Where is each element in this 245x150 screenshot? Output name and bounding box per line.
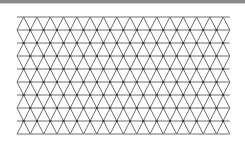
lattice-node (76, 120, 78, 122)
lattice-edge (150, 95, 157, 108)
lattice-edge (37, 95, 44, 108)
lattice-node (136, 29, 138, 31)
lattice-edge (103, 30, 110, 43)
lattice-edge (97, 82, 104, 95)
lattice-edge (223, 17, 230, 30)
lattice-node (196, 68, 198, 70)
lattice-edge (190, 69, 197, 82)
lattice-node (216, 107, 218, 109)
lattice-edge (157, 30, 164, 43)
lattice-edge (123, 56, 130, 69)
lattice-edge (143, 95, 150, 108)
lattice-edge (163, 82, 170, 95)
lattice-edge (37, 30, 44, 43)
lattice-node (89, 94, 91, 96)
lattice-node (169, 42, 171, 44)
lattice-edge (110, 30, 117, 43)
lattice-edge (30, 56, 37, 69)
lattice-node (36, 120, 38, 122)
lattice-edge (210, 30, 217, 43)
lattice-edge (70, 82, 77, 95)
lattice-edge (84, 30, 91, 43)
lattice-node (23, 42, 25, 44)
lattice-edge (64, 82, 71, 95)
lattice-edge (170, 56, 177, 69)
lattice-edge (44, 69, 51, 82)
lattice-node (149, 107, 151, 109)
lattice-edge (50, 43, 57, 56)
lattice-edge (197, 56, 204, 69)
lattice-edge (203, 56, 210, 69)
lattice-node (83, 81, 85, 83)
lattice-node (116, 42, 118, 44)
lattice-edge (64, 17, 71, 30)
lattice-edge (190, 17, 197, 30)
lattice-edge (177, 95, 184, 108)
lattice-edge (44, 95, 51, 108)
lattice-edge (44, 108, 51, 121)
lattice-node (156, 120, 158, 122)
lattice-node (109, 107, 111, 109)
lattice-edge (190, 95, 197, 108)
lattice-edge (110, 82, 117, 95)
lattice-edge (37, 17, 44, 30)
lattice-edge (130, 69, 137, 82)
lattice-edge (123, 82, 130, 95)
lattice-edge (183, 69, 190, 82)
lattice-edge (24, 17, 31, 30)
lattice-node (122, 29, 124, 31)
lattice-node (129, 68, 131, 70)
lattice-node (196, 42, 198, 44)
lattice-edge (203, 69, 210, 82)
lattice-node (49, 120, 51, 122)
lattice-edge (64, 56, 71, 69)
lattice-node (182, 42, 184, 44)
lattice-edge (103, 69, 110, 82)
lattice-node (56, 55, 58, 57)
lattice-node (142, 94, 144, 96)
lattice-edge (157, 56, 164, 69)
lattice-edge (57, 95, 64, 108)
lattice-node (222, 68, 224, 70)
lattice-node (69, 55, 71, 57)
lattice-node (122, 107, 124, 109)
lattice-edge (150, 108, 157, 121)
lattice-node (96, 107, 98, 109)
lattice-node (202, 29, 204, 31)
lattice-edge (44, 43, 51, 56)
lattice-edge (30, 17, 37, 30)
lattice-node (76, 68, 78, 70)
lattice-edge (123, 69, 130, 82)
lattice-edge (163, 30, 170, 43)
lattice-edge (190, 121, 197, 134)
lattice-node (36, 42, 38, 44)
lattice-node (222, 94, 224, 96)
lattice-edge (50, 95, 57, 108)
lattice-edge (30, 69, 37, 82)
lattice-edge (217, 82, 224, 95)
lattice-node (156, 68, 158, 70)
lattice-edge (77, 95, 84, 108)
lattice-node (189, 29, 191, 31)
lattice-edge (37, 43, 44, 56)
lattice-edge (77, 17, 84, 30)
lattice-node (182, 120, 184, 122)
lattice-node (156, 94, 158, 96)
lattice-edge (130, 82, 137, 95)
lattice-edge (183, 56, 190, 69)
lattice-edge (210, 56, 217, 69)
lattice-node (202, 107, 204, 109)
lattice-node (83, 29, 85, 31)
lattice-edge (110, 95, 117, 108)
lattice-edge (177, 30, 184, 43)
lattice-edge (70, 56, 77, 69)
lattice-edge (44, 56, 51, 69)
lattice-edge (190, 30, 197, 43)
lattice-edge (203, 108, 210, 121)
lattice-node (162, 107, 164, 109)
lattice-edge (103, 82, 110, 95)
lattice-edge (150, 56, 157, 69)
lattice-edge (97, 56, 104, 69)
lattice-node (222, 42, 224, 44)
lattice-edge (210, 82, 217, 95)
